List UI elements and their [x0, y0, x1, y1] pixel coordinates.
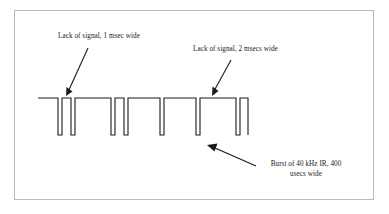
arrow-lack-of-signal-2 [212, 60, 231, 96]
annotation-burst-line1: Burst of 40 kHz IR, 400 [271, 160, 342, 168]
annotation-lack-of-signal-1: Lack of signal, 1 msec wide [58, 32, 140, 42]
arrow-burst [207, 144, 256, 167]
waveform-figure: Lack of signal, 1 msec wide Lack of sign… [0, 0, 389, 214]
annotation-burst-line2: usecs wide [258, 170, 354, 180]
arrow-lack-of-signal-1 [66, 48, 88, 96]
waveform-trace [38, 98, 248, 135]
annotation-burst: Burst of 40 kHz IR, 400 usecs wide [258, 160, 354, 179]
annotation-lack-of-signal-2: Lack of signal, 2 msecs wide [193, 45, 278, 55]
